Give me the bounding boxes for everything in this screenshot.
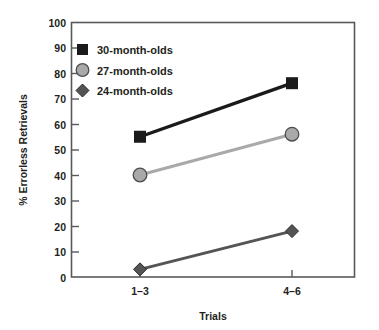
data-point-30-trials-1-3 bbox=[134, 131, 146, 143]
y-tick-label-90: 90 bbox=[54, 42, 66, 54]
y-tick-label-70: 70 bbox=[54, 93, 66, 105]
data-point-27-trials-4-6 bbox=[285, 127, 299, 141]
y-tick-label-20: 20 bbox=[54, 221, 66, 233]
legend-label-27-month-olds: 27-month-olds bbox=[97, 65, 173, 77]
y-tick-label-50: 50 bbox=[54, 144, 66, 156]
data-point-27-trials-1-3 bbox=[133, 168, 147, 182]
y-tick-label-100: 100 bbox=[48, 17, 66, 29]
square-marker-icon bbox=[77, 44, 88, 55]
y-tick-label-60: 60 bbox=[54, 119, 66, 131]
data-point-30-trials-4-6 bbox=[286, 77, 298, 89]
legend-label-24-month-olds: 24-month-olds bbox=[97, 85, 173, 97]
y-tick-label-80: 80 bbox=[54, 68, 66, 80]
y-axis-title: % Errorless Retrievals bbox=[17, 94, 29, 206]
chart-figure: 100 90 80 70 60 50 40 30 20 10 0 % Error… bbox=[0, 0, 379, 330]
y-tick-label-30: 30 bbox=[54, 195, 66, 207]
y-tick-label-40: 40 bbox=[54, 170, 66, 182]
y-tick-label-0: 0 bbox=[60, 272, 66, 284]
line-chart: 100 90 80 70 60 50 40 30 20 10 0 % Error… bbox=[0, 0, 379, 330]
x-axis-title: Trials bbox=[199, 310, 227, 322]
x-tick-label-0: 1–3 bbox=[131, 285, 149, 297]
legend-label-30-month-olds: 30-month-olds bbox=[97, 44, 173, 56]
x-tick-label-1: 4–6 bbox=[283, 285, 301, 297]
circle-marker-icon bbox=[76, 64, 89, 77]
y-tick-label-10: 10 bbox=[54, 246, 66, 258]
